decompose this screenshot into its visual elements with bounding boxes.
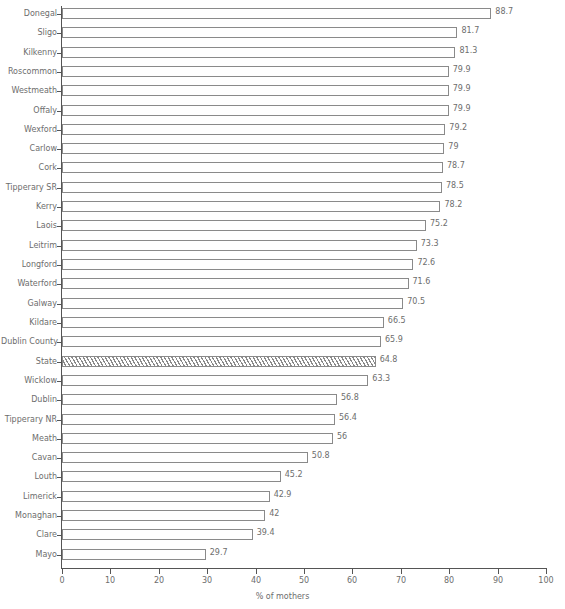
y-axis-tick [57, 14, 62, 15]
bar[interactable] [62, 298, 403, 309]
x-axis-tick [304, 569, 305, 574]
bar[interactable] [62, 143, 444, 154]
y-axis-tick [57, 168, 62, 169]
bar-value-label: 78.7 [447, 160, 465, 171]
bar[interactable] [62, 375, 368, 386]
x-axis-tick [546, 569, 547, 574]
bar[interactable] [62, 510, 265, 521]
bar-value-label: 42.9 [274, 489, 292, 500]
y-axis-tick [57, 207, 62, 208]
bar-row: 78.5 [62, 182, 546, 193]
bar[interactable] [62, 220, 426, 231]
bar[interactable] [62, 27, 457, 38]
category-label: Offaly [1, 105, 57, 116]
category-label: Monaghan [1, 510, 57, 521]
bar[interactable] [62, 66, 449, 77]
y-axis-tick [57, 72, 62, 73]
bar-highlighted[interactable] [62, 356, 376, 367]
y-axis-tick [57, 342, 62, 343]
x-axis-tick [110, 569, 111, 574]
bar-row: 66.5 [62, 317, 546, 328]
x-axis-tick-label: 0 [59, 576, 64, 586]
category-label: Wicklow [1, 375, 57, 386]
bar[interactable] [62, 105, 449, 116]
bar-value-label: 81.7 [461, 25, 479, 36]
bar-row: 73.3 [62, 240, 546, 251]
bar[interactable] [62, 278, 409, 289]
y-axis-tick [57, 33, 62, 34]
bar[interactable] [62, 471, 281, 482]
bar[interactable] [62, 85, 449, 96]
x-axis-tick [352, 569, 353, 574]
bar[interactable] [62, 549, 206, 560]
y-axis-tick [57, 477, 62, 478]
y-axis-category-labels: DonegalSligoKilkennyRoscommonWestmeathOf… [0, 8, 57, 568]
x-axis-tick [62, 569, 63, 574]
bar[interactable] [62, 124, 445, 135]
bar[interactable] [62, 201, 440, 212]
category-label: Leitrim [1, 240, 57, 251]
bar-row: 50.8 [62, 452, 546, 463]
bar[interactable] [62, 433, 333, 444]
y-axis-tick [57, 362, 62, 363]
bar[interactable] [62, 8, 491, 19]
bar-row: 71.6 [62, 278, 546, 289]
bar-value-label: 70.5 [407, 296, 425, 307]
plot-area: 88.781.781.379.979.979.979.27978.778.578… [62, 8, 546, 568]
x-axis-tick [207, 569, 208, 574]
x-axis-tick-label: 80 [444, 576, 454, 586]
y-axis-tick [57, 400, 62, 401]
bar-value-label: 42 [269, 508, 279, 519]
bar-value-label: 71.6 [413, 276, 431, 287]
x-axis-tick [256, 569, 257, 574]
bar-row: 79.9 [62, 85, 546, 96]
bar[interactable] [62, 182, 442, 193]
x-axis-tick-label: 100 [538, 576, 553, 586]
bar-row: 79.2 [62, 124, 546, 135]
bar-row: 79 [62, 143, 546, 154]
bar-value-label: 78.2 [444, 199, 462, 210]
y-axis-tick [57, 555, 62, 556]
category-label: Dublin County [1, 336, 57, 347]
category-label: State [1, 356, 57, 367]
bar-value-label: 79.9 [453, 103, 471, 114]
x-axis-tick [498, 569, 499, 574]
bar-row: 75.2 [62, 220, 546, 231]
category-label: Kildare [1, 317, 57, 328]
x-axis-title: % of mothers [0, 592, 565, 601]
bar[interactable] [62, 491, 270, 502]
category-label: Longford [1, 259, 57, 270]
bar-value-label: 79 [448, 141, 458, 152]
y-axis-tick [57, 516, 62, 517]
bar[interactable] [62, 336, 381, 347]
bar[interactable] [62, 317, 384, 328]
category-label: Louth [1, 471, 57, 482]
bar[interactable] [62, 394, 337, 405]
bar[interactable] [62, 240, 417, 251]
bar-chart: DonegalSligoKilkennyRoscommonWestmeathOf… [0, 0, 565, 609]
bar-value-label: 79.9 [453, 64, 471, 75]
x-axis-tick-label: 60 [347, 576, 357, 586]
category-label: Westmeath [1, 85, 57, 96]
bar[interactable] [62, 452, 308, 463]
x-axis-tick-label: 90 [493, 576, 503, 586]
bar[interactable] [62, 529, 253, 540]
bar[interactable] [62, 259, 413, 270]
bar-value-label: 56 [337, 431, 347, 442]
bar-value-label: 79.9 [453, 83, 471, 94]
category-label: Kilkenny [1, 47, 57, 58]
x-axis-tick-label: 30 [202, 576, 212, 586]
category-label: Limerick [1, 491, 57, 502]
category-label: Laois [1, 220, 57, 231]
bar-row: 81.7 [62, 27, 546, 38]
category-label: Tipperary SR [1, 182, 57, 193]
bar[interactable] [62, 162, 443, 173]
category-label: Sligo [1, 27, 57, 38]
category-label: Wexford [1, 124, 57, 135]
bar[interactable] [62, 414, 335, 425]
bar-row: 42 [62, 510, 546, 521]
bar-row: 56 [62, 433, 546, 444]
bar-value-label: 50.8 [312, 450, 330, 461]
category-label: Mayo [1, 549, 57, 560]
bar[interactable] [62, 47, 455, 58]
